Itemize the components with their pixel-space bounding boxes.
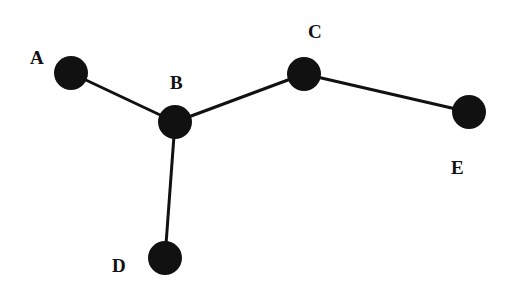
edge-a-b xyxy=(71,73,175,122)
node-label-e: E xyxy=(451,157,464,178)
node-b xyxy=(158,105,192,139)
node-a xyxy=(54,56,88,90)
edges-group xyxy=(71,73,469,258)
node-label-a: A xyxy=(30,47,44,68)
edge-c-e xyxy=(304,74,469,112)
node-c xyxy=(287,57,321,91)
edge-b-c xyxy=(175,74,304,122)
labels-group: ABCDE xyxy=(30,21,464,276)
node-d xyxy=(148,241,182,275)
node-label-c: C xyxy=(308,21,322,42)
node-e xyxy=(452,95,486,129)
node-label-d: D xyxy=(112,255,126,276)
edge-b-d xyxy=(165,122,175,258)
graph-diagram: ABCDE xyxy=(0,0,508,296)
nodes-group xyxy=(54,56,486,275)
node-label-b: B xyxy=(170,72,183,93)
